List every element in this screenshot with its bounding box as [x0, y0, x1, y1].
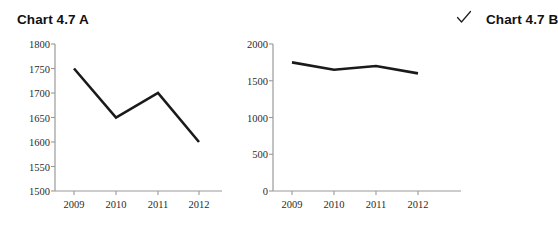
chart-b-x-tick-label: 2010 — [324, 199, 345, 210]
chart-b-data-line — [292, 62, 418, 73]
chart-b-x-tick-label: 2012 — [408, 199, 429, 210]
chart-b-y-tick-label: 0 — [233, 186, 268, 197]
chart-a-x-tick-label: 2012 — [189, 199, 210, 210]
chart-b-x-tick-label: 2011 — [366, 199, 387, 210]
chart-a-y-tick-label: 1750 — [0, 63, 50, 74]
chart-a-y-tick-label: 1600 — [0, 137, 50, 148]
chart-panel-b: Chart 4.7 B 0500100015002000200920102011… — [233, 0, 466, 230]
chart-a-y-tick-label: 1550 — [0, 161, 50, 172]
chart-a-y-tick-label: 1700 — [0, 88, 50, 99]
chart-b-title: Chart 4.7 B — [486, 12, 558, 27]
chart-b-y-tick-label: 500 — [233, 149, 268, 160]
chart-a-x-tick-label: 2011 — [148, 199, 169, 210]
chart-a-x-tick-label: 2009 — [64, 199, 85, 210]
chart-a-y-tick-label: 1500 — [0, 186, 50, 197]
chart-a-y-tick-label: 1650 — [0, 112, 50, 123]
chart-b-y-tick-label: 2000 — [233, 39, 268, 50]
chart-a-data-line — [74, 69, 199, 143]
chart-b-y-tick-label: 1500 — [233, 75, 268, 86]
chart-b-x-tick-label: 2009 — [282, 199, 303, 210]
chart-panel-a: Chart 4.7 A 1500155016001650170017501800… — [0, 0, 233, 230]
chart-a-y-tick-label: 1800 — [0, 39, 50, 50]
chart-a-x-tick-label: 2010 — [106, 199, 127, 210]
chart-b-y-tick-label: 1000 — [233, 112, 268, 123]
